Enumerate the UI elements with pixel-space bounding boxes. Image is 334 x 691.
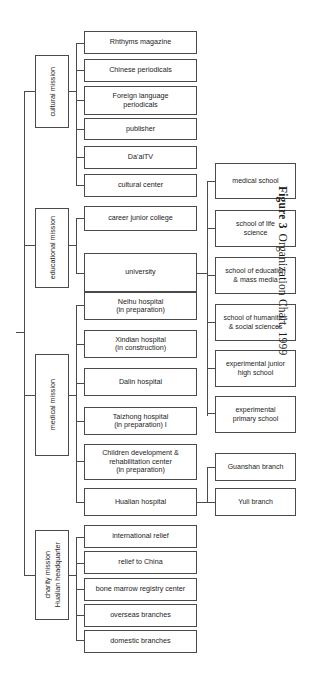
node-rhthyms-magazine: Rhthyms magazine — [84, 31, 197, 54]
charity-box-to-spine-line — [69, 575, 77, 576]
medical-box-to-spine-line — [69, 395, 77, 396]
figure-title: Organization Chart, 1999 — [277, 234, 289, 356]
node-label-line2: periodicals — [123, 101, 157, 109]
university-box-to-spine-line — [197, 273, 208, 274]
hospital-branch-spine-line — [207, 467, 208, 502]
root-stub-line — [16, 332, 25, 333]
node-label: bone marrow registry center — [96, 585, 185, 593]
node-neihu-hospital: Neihu hospital (in preparation) — [84, 292, 197, 320]
mission-label-cultural: cultural mission — [48, 67, 57, 117]
node-label: cultural center — [118, 181, 163, 189]
node-label: university — [125, 268, 155, 276]
node-label: overseas branches — [110, 611, 171, 619]
node-hualian-hospital: Hualian hospital — [84, 488, 197, 516]
figure-caption: Figure 3 Organization Chart, 1999 — [270, 186, 296, 476]
mission-box-educational: educational mission — [35, 208, 69, 288]
node-yuli-branch: Yuli branch — [215, 488, 296, 516]
node-label: career junior college — [108, 214, 173, 222]
root-trunk-line — [24, 91, 25, 575]
educational-box-to-spine-line — [69, 245, 77, 246]
node-overseas-branches: overseas branches — [84, 604, 197, 627]
trunk-to-cultural-line — [24, 91, 35, 92]
node-label: Yuli branch — [238, 498, 273, 506]
node-taizhong-hospital: Taizhong hospital (in preparation) I — [84, 407, 197, 435]
mission-label-educational: educational mission — [48, 216, 57, 279]
mission-label-medical: medical mission — [48, 379, 57, 430]
node-label: Rhthyms magazine — [110, 38, 172, 46]
node-dalin-hospital: Dalin hospital — [84, 368, 197, 396]
node-international-relief: international relief — [84, 525, 197, 548]
node-label: international relief — [112, 532, 169, 540]
node-label: Chinese periodicals — [109, 66, 172, 74]
node-label-line2: high school — [238, 369, 273, 377]
node-label: medical school — [232, 177, 278, 185]
trunk-to-educational-line — [24, 245, 35, 246]
node-label-line2: (in preparation) — [116, 306, 165, 314]
node-career-junior-college: career junior college — [84, 206, 197, 231]
organization-chart: cultural mission educational mission med… — [0, 0, 334, 691]
node-label: Hualian hospital — [115, 498, 166, 506]
node-publisher: publisher — [84, 118, 197, 140]
node-foreign-language-periodicals: Foreign language periodicals — [84, 86, 197, 115]
node-label: domestic branches — [110, 637, 170, 645]
node-daai-tv: Da'aiTV — [84, 146, 197, 169]
mission-box-cultural: cultural mission — [35, 55, 69, 128]
node-relief-to-china: relief to China — [84, 551, 197, 574]
node-chinese-periodicals: Chinese periodicals — [84, 59, 197, 82]
node-label: Dalin hospital — [119, 378, 162, 386]
cultural-spine-line — [76, 43, 77, 185]
medical-spine-line-lower — [76, 490, 77, 503]
mission-box-charity: charity mission Hualian headquarter — [35, 530, 69, 620]
node-label: Da'aiTV — [128, 153, 153, 161]
cultural-box-to-spine-line — [69, 91, 77, 92]
node-label-line3: (in preparation) — [116, 466, 165, 474]
node-label-line2: (in construction) — [115, 344, 166, 352]
trunk-to-medical-line — [24, 395, 35, 396]
node-label-line2: science — [244, 229, 268, 237]
node-cultural-center: cultural center — [84, 174, 197, 197]
mission-label-headquarter: Hualian headquarter — [53, 542, 62, 607]
node-xindian-hospital: Xindian hospital (in construction) — [84, 330, 197, 358]
mission-box-medical: medical mission — [35, 354, 69, 456]
node-label: relief to China — [118, 558, 162, 566]
node-label-line2: (in preparation) I — [114, 421, 167, 429]
node-label: publisher — [126, 125, 155, 133]
node-university: university — [84, 253, 197, 292]
medical-spine-line — [76, 305, 77, 490]
node-children-development-rehabilitation-center: Children development & rehabilitation ce… — [84, 444, 197, 480]
trunk-to-charity-line — [24, 575, 35, 576]
figure-number: Figure 3 — [277, 186, 289, 229]
node-domestic-branches: domestic branches — [84, 630, 197, 653]
mission-label-charity: charity mission — [43, 551, 52, 599]
node-bone-marrow-registry-center: bone marrow registry center — [84, 578, 197, 601]
university-spine-line-lower — [207, 346, 208, 416]
